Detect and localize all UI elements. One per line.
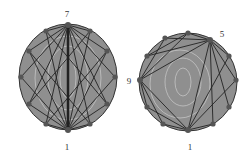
node-label-1: 1 [188,142,193,152]
node-label-1: 1 [65,142,70,152]
node-label-9: 9 [127,76,132,86]
graph-figure: 7 1 [0,0,250,161]
node-label-7: 7 [65,9,70,19]
right-circle-graph: 5 9 1 [127,29,239,152]
left-circle-graph: 7 1 [18,9,117,152]
node-label-5: 5 [220,29,225,39]
